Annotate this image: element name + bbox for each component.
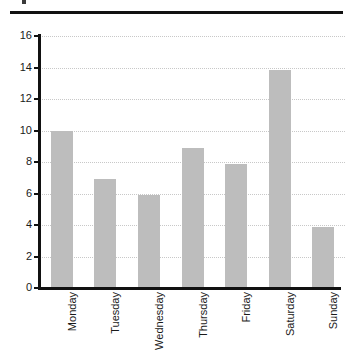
y-axis-tick-mark — [34, 161, 39, 163]
x-axis-tick-label: Sunday — [328, 292, 339, 329]
plot-area — [40, 36, 345, 288]
y-axis-tick-mark — [34, 256, 39, 258]
y-axis-tick-mark — [34, 193, 39, 195]
bar-chart: 0246810121416 MondayTuesdayWednesdayThur… — [0, 0, 349, 359]
x-axis-tick-label: Tuesday — [110, 292, 121, 334]
y-axis-tick-label: 6 — [6, 188, 32, 199]
y-axis-tick-mark — [34, 35, 39, 37]
gridline — [40, 99, 345, 100]
x-axis-tick-label: Saturday — [285, 292, 296, 336]
y-axis-tick-label: 12 — [6, 93, 32, 104]
y-axis-tick-label: 4 — [6, 219, 32, 230]
y-axis-tick-label: 8 — [6, 156, 32, 167]
bar[interactable] — [269, 70, 291, 288]
x-axis-tick-label: Monday — [67, 292, 78, 331]
gridline — [40, 131, 345, 132]
y-axis-tick-label: 16 — [6, 30, 32, 41]
bar[interactable] — [51, 131, 73, 289]
gridline — [40, 68, 345, 69]
y-axis-tick-mark — [34, 287, 39, 289]
gridline — [40, 36, 345, 37]
y-axis-tick-label: 2 — [6, 251, 32, 262]
y-axis-tick-mark — [34, 98, 39, 100]
x-axis-tick-label: Wednesday — [154, 292, 165, 350]
bar[interactable] — [138, 195, 160, 288]
y-axis-tick-label: 0 — [6, 282, 32, 293]
x-axis-tick-label: Thursday — [198, 292, 209, 338]
bar[interactable] — [94, 179, 116, 288]
bar[interactable] — [312, 227, 334, 288]
x-axis-line — [38, 287, 341, 290]
bar[interactable] — [225, 164, 247, 288]
y-axis-tick-label: 10 — [6, 125, 32, 136]
y-axis-tick-mark — [34, 224, 39, 226]
x-axis-tick-label: Friday — [241, 292, 252, 323]
y-axis-tick-label: 14 — [6, 62, 32, 73]
bar[interactable] — [182, 148, 204, 288]
y-axis-tick-mark — [34, 130, 39, 132]
y-axis-tick-mark — [34, 67, 39, 69]
